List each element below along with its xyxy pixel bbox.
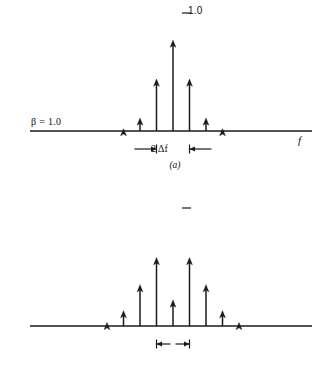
delta-f-dimension xyxy=(157,340,190,349)
amplitude-label-a: 1.0 xyxy=(188,5,203,16)
delta-f-dimension xyxy=(135,145,212,154)
panel-beta-2: β = 2.0 1.0 2 Δf f (b) xyxy=(0,190,328,379)
span-label-a: 2 Δf xyxy=(151,143,168,154)
spectral-line-arrowhead xyxy=(121,129,127,136)
beta-label-a: β = 1.0 xyxy=(31,116,61,127)
spectrum-figure: β = 1.0 1.0 2 Δf f (a) β = 2.0 1.0 2 Δf … xyxy=(0,0,328,379)
panel-beta-1: β = 1.0 1.0 2 Δf f (a) xyxy=(0,0,328,190)
spectrum-plot-b xyxy=(0,190,328,379)
spectral-line-arrowhead xyxy=(220,129,226,136)
panel-caption-a: (a) xyxy=(155,160,195,170)
axis-label-f-a: f xyxy=(298,134,301,146)
